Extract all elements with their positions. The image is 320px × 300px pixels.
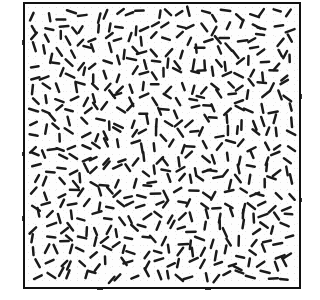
texture-line-segment (243, 220, 244, 229)
texture-line-segment (221, 10, 230, 11)
texture-line-segment (96, 119, 104, 121)
texture-line-segment (95, 264, 100, 270)
texture-line-segment (226, 140, 235, 143)
texture-line-segment (134, 179, 136, 188)
texture-line-segment (262, 104, 264, 113)
line-segment-texture-field (25, 4, 299, 287)
texture-line-segment (60, 200, 64, 207)
texture-line-segment (180, 51, 182, 58)
texture-line-segment (72, 28, 77, 34)
texture-line-segment (113, 127, 120, 131)
texture-line-segment (133, 158, 139, 165)
texture-line-segment (32, 85, 33, 94)
texture-line-segment (206, 273, 208, 281)
texture-line-segment (169, 140, 173, 147)
texture-line-segment (99, 188, 101, 195)
texture-line-segment (290, 103, 292, 110)
texture-line-segment (179, 213, 186, 220)
texture-line-segment (31, 187, 36, 193)
texture-line-segment (81, 118, 87, 124)
texture-line-segment (113, 242, 120, 247)
texture-line-segment (101, 237, 108, 243)
texture-line-segment (276, 128, 277, 136)
texture-line-segment (168, 245, 169, 253)
texture-line-segment (107, 226, 111, 234)
texture-line-segment (125, 164, 130, 171)
texture-line-segment (123, 246, 125, 253)
texture-line-segment (60, 178, 65, 184)
texture-line-segment (202, 11, 210, 13)
texture-line-segment (65, 128, 73, 133)
texture-line-segment (158, 271, 161, 279)
texture-line-segment (178, 157, 179, 166)
texture-line-segment (42, 150, 45, 157)
texture-line-segment (208, 170, 217, 171)
texture-line-segment (290, 174, 292, 183)
texture-line-segment (269, 112, 278, 114)
texture-line-segment (218, 46, 221, 53)
texture-line-segment (38, 208, 40, 216)
texture-line-segment (280, 279, 288, 280)
texture-line-segment (174, 188, 181, 192)
texture-line-segment (157, 222, 160, 230)
texture-line-segment (151, 50, 157, 57)
texture-line-segment (154, 143, 155, 151)
texture-line-segment (114, 191, 121, 197)
texture-line-segment (164, 94, 171, 98)
texture-line-segment (67, 223, 73, 230)
texture-line-segment (241, 20, 244, 28)
texture-line-segment (47, 237, 55, 238)
texture-line-segment (34, 275, 42, 279)
texture-line-segment (195, 237, 204, 240)
texture-line-segment (154, 251, 161, 253)
texture-line-segment (145, 252, 150, 258)
texture-line-segment (67, 261, 71, 269)
texture-line-segment (274, 115, 276, 124)
texture-line-segment (225, 204, 232, 208)
texture-line-segment (71, 210, 72, 219)
texture-line-segment (30, 134, 38, 136)
texture-line-segment (83, 67, 85, 74)
texture-line-segment (47, 211, 53, 217)
texture-line-segment (30, 227, 37, 233)
texture-line-segment (107, 187, 113, 193)
texture-line-segment (212, 155, 215, 163)
texture-line-segment (275, 262, 278, 271)
texture-line-segment (31, 152, 38, 155)
texture-line-segment (132, 121, 135, 128)
texture-line-segment (278, 39, 284, 46)
texture-line-segment (215, 251, 217, 260)
texture-line-segment (40, 76, 49, 79)
texture-line-segment (286, 29, 295, 32)
texture-line-segment (143, 152, 144, 161)
texture-line-segment (215, 262, 222, 265)
texture-line-segment (144, 214, 152, 219)
texture-line-segment (104, 10, 108, 19)
texture-line-segment (33, 42, 36, 51)
texture-line-segment (283, 51, 287, 58)
texture-line-segment (154, 212, 161, 217)
texture-line-segment (197, 176, 203, 180)
texture-line-segment (225, 62, 226, 71)
texture-line-segment (288, 146, 295, 151)
texture-line-segment (197, 96, 204, 98)
texture-line-segment (143, 185, 151, 186)
texture-line-segment (137, 195, 146, 197)
texture-line-segment (66, 59, 73, 66)
texture-line-segment (248, 38, 255, 42)
texture-line-segment (162, 38, 170, 40)
texture-line-segment (43, 83, 50, 88)
texture-line-segment (109, 43, 111, 52)
texture-line-segment (236, 106, 244, 110)
texture-line-segment (118, 160, 125, 162)
texture-line-segment (287, 131, 295, 135)
texture-line-segment (167, 58, 168, 67)
texture-line-segment (262, 244, 265, 252)
texture-line-segment (233, 51, 239, 58)
texture-line-segment (71, 50, 75, 57)
texture-line-segment (256, 34, 264, 35)
texture-line-segment (116, 87, 122, 93)
texture-line-segment (106, 33, 113, 38)
texture-line-segment (129, 33, 132, 41)
texture-line-segment (270, 83, 274, 91)
